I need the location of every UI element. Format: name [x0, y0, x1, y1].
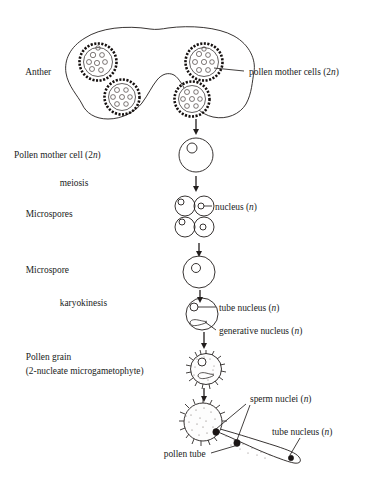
- label-anther: Anther: [14, 67, 58, 77]
- pollen-sac-upper-right: [186, 44, 223, 81]
- arrow-pmc-to-tetrad: [193, 176, 199, 192]
- arrow-grain-to-germinated: [201, 388, 207, 402]
- callout-tube-nucleus-tip: tube nucleus (n): [272, 427, 332, 438]
- leader-generative-nucleus: [205, 322, 216, 330]
- label-pollen-grain-subtitle: (2-nucleate microgametophyte): [14, 366, 151, 377]
- anther-group: [66, 27, 255, 119]
- tube-nucleus-at-tip: [288, 455, 293, 461]
- sperm-nucleus-1: [213, 429, 219, 436]
- callout-pollen-mother-cells: pollen mother cells (2n): [249, 67, 339, 78]
- callout-pollen-tube: pollen tube: [152, 449, 213, 459]
- label-meiosis: meiosis: [48, 178, 95, 188]
- callout-sperm-nuclei: sperm nuclei (n): [250, 394, 311, 405]
- callout-generative-nucleus: generative nucleus (n): [219, 326, 302, 337]
- callout-nucleus: nucleus (n): [215, 202, 257, 213]
- generative-nucleus-shape: [190, 320, 207, 323]
- label-microspore: Microspore: [14, 265, 76, 275]
- pollen-mother-cell-figure: [179, 138, 213, 172]
- arrow-binucleate-to-grain: [201, 332, 207, 349]
- leader-tube-nucleus-tip: [290, 438, 300, 455]
- arrow-microspore-to-binucleate: [197, 290, 203, 303]
- pollen-sac-lower-left: [105, 80, 140, 115]
- label-pollen-grain: Pollen grain: [14, 352, 78, 362]
- label-pollen-mother-cell: Pollen mother cell (2n): [14, 150, 101, 161]
- leader-pollen-tube: [211, 445, 238, 453]
- arrow-anther-to-pmc: [193, 119, 199, 135]
- pollen-sac-upper-left: [80, 44, 117, 81]
- microspore-figure: [183, 256, 215, 288]
- microspore-tetrad: [175, 196, 214, 237]
- leader-pollen-mother-cells: [214, 68, 244, 71]
- label-microspores: Microspores: [14, 209, 80, 219]
- generative-nucleus-shape-lower: [190, 322, 207, 326]
- binucleate-microspore-figure: [186, 298, 218, 330]
- microsporogenesis-diagram: Anther Pollen mother cell (2n) meiosis M…: [0, 0, 380, 478]
- pollen-sac-lower-right: [175, 82, 210, 117]
- callout-tube-nucleus-grain: tube nucleus (n): [219, 303, 279, 314]
- arrow-tetrad-to-microspore: [196, 243, 202, 257]
- label-karyokinesis: karyokinesis: [48, 298, 114, 308]
- pollen-grain-figure: [186, 350, 226, 389]
